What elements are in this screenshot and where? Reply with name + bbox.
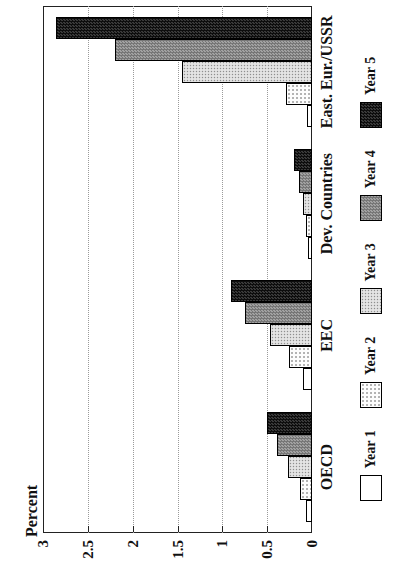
bar — [115, 39, 312, 61]
legend-label: Year 1 — [362, 430, 380, 468]
y-tick-label-1: 1 — [213, 540, 231, 583]
legend-swatch — [360, 289, 382, 315]
bar — [277, 434, 312, 456]
legend-label: Year 5 — [362, 57, 380, 95]
gridline-0.5 — [267, 6, 268, 533]
gridline-1.5 — [178, 6, 179, 533]
bar — [308, 237, 312, 259]
y-tick-2 — [133, 526, 134, 532]
y-tick-0.5 — [267, 526, 268, 532]
bar — [303, 368, 312, 390]
bar — [300, 478, 312, 500]
bar — [306, 215, 312, 237]
bar — [182, 61, 312, 83]
legend-swatch — [360, 196, 382, 222]
legend-swatch — [360, 382, 382, 408]
bar — [56, 17, 312, 39]
y-tick-1.5 — [178, 526, 179, 532]
bar — [294, 149, 312, 171]
y-tick-label-2: 2 — [124, 540, 142, 583]
y-tick-2.5 — [88, 526, 89, 532]
bar — [231, 280, 312, 302]
legend-label: Year 3 — [362, 243, 380, 281]
gridline-2 — [133, 6, 134, 533]
bar — [288, 456, 312, 478]
rotated-bar-chart: Percent 00.511.522.53OECDEECDev. Countri… — [0, 0, 396, 583]
y-axis-title: Percent — [23, 485, 41, 537]
y-tick-1 — [222, 526, 223, 532]
y-tick-label-1.5: 1.5 — [169, 540, 187, 583]
gridline-2.5 — [88, 6, 89, 533]
bar — [303, 193, 312, 215]
bar — [307, 105, 312, 127]
y-tick-label-0.5: 0.5 — [258, 540, 276, 583]
bar — [306, 500, 312, 522]
bar — [289, 346, 312, 368]
legend-swatch — [360, 102, 382, 128]
figure-page: Percent 00.511.522.53OECDEECDev. Countri… — [0, 0, 396, 583]
gridline-1 — [222, 6, 223, 533]
bar — [299, 171, 312, 193]
y-tick-label-3: 3 — [34, 540, 52, 583]
category-label: East. Eur./USSR — [317, 0, 336, 152]
bar — [286, 83, 312, 105]
legend-label: Year 2 — [362, 337, 380, 375]
legend-label: Year 4 — [362, 150, 380, 188]
y-tick-label-2.5: 2.5 — [79, 540, 97, 583]
bar — [267, 412, 312, 434]
bar — [245, 302, 312, 324]
legend-swatch — [360, 476, 382, 502]
bar — [270, 324, 312, 346]
